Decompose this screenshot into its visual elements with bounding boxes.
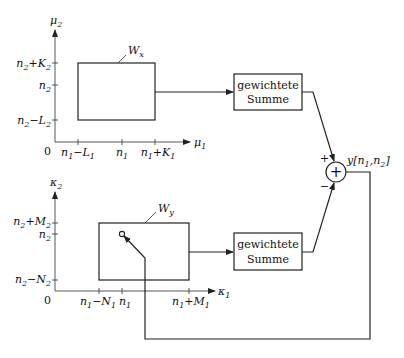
top-plot: μ2 μ1 0 n2+K2 n2 n2−L2 n1−L1 n1 n1+K1 Wx [16,14,233,161]
top-sum-line1: gewichtete [237,79,299,92]
bottom-sum-to-adder-arrow [302,183,334,252]
bottom-y-tick-lower: n2−N2 [15,273,51,288]
block-diagram: μ2 μ1 0 n2+K2 n2 n2−L2 n1−L1 n1 n1+K1 Wx… [0,0,404,358]
bottom-x-tick-center: n1 [119,295,131,310]
feedback-insert-point [119,231,124,236]
top-origin-label: 0 [44,145,51,158]
window-wx [78,63,155,120]
bottom-y-axis-label: κ2 [49,176,62,191]
bottom-y-tick-center: n2 [39,228,51,243]
window-wy-label: Wy [158,202,174,217]
bottom-x-tick-left: n1−N1 [80,295,116,310]
top-x-tick-center: n1 [116,146,128,161]
top-y-tick-upper: n2+K2 [16,57,51,72]
top-y-tick-lower: n2−L2 [17,114,51,129]
output-label: y[n1,n2] [346,154,390,169]
bottom-sum-line2: Summe [247,253,289,266]
top-x-tick-right: n1+K1 [141,146,176,161]
top-y-axis-label: μ2 [50,14,62,29]
top-sum-line2: Summe [247,93,289,106]
top-x-axis-label: μ1 [194,136,206,151]
bottom-weighted-sum-block: gewichtete Summe [234,233,302,270]
top-sum-to-adder-arrow [302,92,334,161]
adder-plus-sign: + [320,152,329,165]
adder-minus-sign: − [320,180,329,193]
bottom-origin-label: 0 [44,294,51,307]
top-weighted-sum-block: gewichtete Summe [234,74,302,110]
adder-plus-icon: + [330,163,343,181]
top-y-tick-center: n2 [39,79,51,94]
bottom-plot: κ2 κ1 0 n2+M2 n2 n2−N2 n1−N1 n1 n1+M1 Wy [13,176,233,310]
top-x-tick-left: n1−L1 [61,146,95,161]
bottom-sum-line1: gewichtete [237,238,299,251]
bottom-x-axis-label: κ1 [217,285,230,300]
window-wx-label: Wx [128,44,144,59]
bottom-x-tick-right: n1+M1 [172,295,210,310]
window-wy [99,223,189,280]
